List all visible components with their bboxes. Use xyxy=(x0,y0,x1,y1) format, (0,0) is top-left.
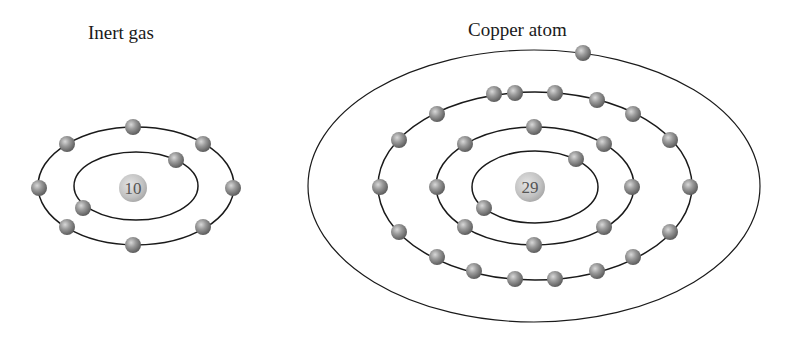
electron xyxy=(526,119,542,135)
electron xyxy=(596,219,612,235)
electron xyxy=(195,219,211,235)
electron xyxy=(662,224,678,240)
electron xyxy=(125,119,141,135)
electron xyxy=(59,219,75,235)
electron xyxy=(429,179,445,195)
electron xyxy=(429,249,445,265)
atom-diagram: 10 29 xyxy=(0,0,797,337)
copper-atom: 29 xyxy=(308,45,760,322)
electron xyxy=(526,237,542,253)
valence-electron xyxy=(575,45,591,61)
electron xyxy=(457,219,473,235)
electron xyxy=(486,86,502,102)
electron xyxy=(625,249,641,265)
electron xyxy=(429,106,445,122)
electron xyxy=(168,152,184,168)
electron xyxy=(457,136,473,152)
electron xyxy=(625,106,641,122)
copper-nucleus-label: 29 xyxy=(522,178,539,197)
electron xyxy=(589,92,605,108)
electron xyxy=(75,200,91,216)
electron xyxy=(547,271,563,287)
inert-gas-nucleus: 10 xyxy=(119,174,147,202)
electron xyxy=(507,85,523,101)
electron xyxy=(589,263,605,279)
electron xyxy=(125,237,141,253)
electron xyxy=(476,200,492,216)
electron xyxy=(596,136,612,152)
electron xyxy=(391,132,407,148)
inert-gas-atom: 10 xyxy=(31,119,241,253)
electron xyxy=(31,180,47,196)
electron xyxy=(372,179,388,195)
electron xyxy=(682,179,698,195)
inert-gas-nucleus-label: 10 xyxy=(125,179,142,198)
copper-nucleus: 29 xyxy=(515,172,545,202)
electron xyxy=(225,180,241,196)
electron xyxy=(547,85,563,101)
electron xyxy=(466,263,482,279)
electron xyxy=(507,271,523,287)
electron xyxy=(662,132,678,148)
copper-shell-4-electrons xyxy=(575,45,591,61)
electron xyxy=(59,136,75,152)
electron xyxy=(624,179,640,195)
electron xyxy=(568,151,584,167)
electron xyxy=(195,136,211,152)
electron xyxy=(391,224,407,240)
